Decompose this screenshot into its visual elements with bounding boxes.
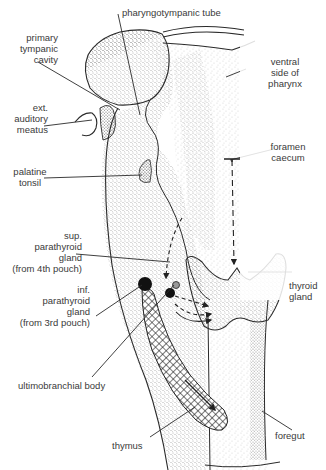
label-palatine-tonsil: palatine tonsil xyxy=(10,166,50,188)
label-sup-parathyroid-gland: sup. parathyroid gland (from 4th pouch) xyxy=(2,230,82,274)
label-primary-tympanic-cavity: primary tympanic cavity xyxy=(16,32,58,65)
ext-auditory-meatus-shape xyxy=(75,105,116,140)
label-ultimobranchial-body: ultimobranchial body xyxy=(18,380,105,391)
label-foregut: foregut xyxy=(275,430,305,441)
label-foramen-caecum: foramen caecum xyxy=(266,141,310,163)
inf-parathyroid-gland-dot xyxy=(138,277,152,291)
label-inf-parathyroid-gland: inf. parathyroid gland (from 3rd pouch) xyxy=(2,284,90,328)
label-thyroid-gland: thyroid gland xyxy=(289,280,318,302)
label-pharyngotympanic-tube: pharyngotympanic tube xyxy=(122,7,221,18)
label-thymus: thymus xyxy=(112,440,143,451)
label-ventral-side-of-pharynx: ventral side of pharynx xyxy=(263,56,307,89)
label-ext-auditory-meatus: ext. auditory meatus xyxy=(6,102,48,135)
